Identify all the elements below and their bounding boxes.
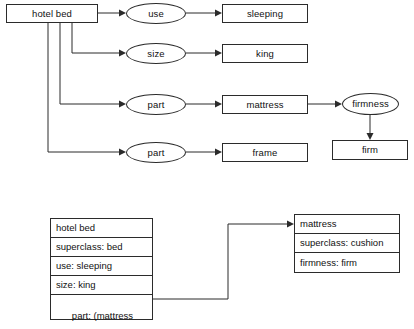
arrowhead-part-frame: [119, 149, 126, 156]
arc-node-use[interactable]: use: [126, 3, 186, 24]
node-mattress-label: mattress: [246, 100, 283, 110]
frame-row[interactable]: firmness: firm: [295, 253, 399, 272]
arc-node-firmness[interactable]: firmness: [342, 93, 399, 115]
arc-node-firmness-label: firmness: [352, 99, 389, 109]
edge-hotelbed-to-part-frame: [48, 22, 119, 152]
arrowhead-firmness: [335, 101, 342, 108]
frame-row-label: use: sleeping: [56, 261, 112, 271]
arc-node-size[interactable]: size: [126, 43, 186, 64]
frame-row[interactable]: hotel bed: [51, 219, 152, 238]
frame-row[interactable]: use: sleeping: [51, 257, 152, 276]
edge-hotelbed-to-size: [72, 22, 119, 53]
arrowhead-mattress: [215, 101, 222, 108]
diagram-root: hotel bed use sleeping size king part ma…: [0, 0, 414, 329]
arrowhead-frame: [215, 149, 222, 156]
arc-node-part-frame[interactable]: part: [126, 142, 186, 163]
arrowhead-use: [119, 10, 126, 17]
node-hotel-bed-label: hotel bed: [32, 9, 72, 19]
frame-row[interactable]: mattress: [295, 215, 399, 234]
arrowhead-frame-pointer: [287, 221, 294, 228]
node-mattress[interactable]: mattress: [222, 95, 308, 114]
arc-node-part-mattress-label: part: [148, 100, 165, 110]
arrowhead-part-mattress: [119, 101, 126, 108]
frame-row-part-line1: part: (mattress: [72, 310, 133, 321]
node-firm[interactable]: firm: [332, 140, 408, 160]
arrowhead-sleeping: [215, 10, 222, 17]
frame-row-label: superclass: cushion: [300, 238, 383, 248]
arrowhead-size: [119, 50, 126, 57]
frame-row-part[interactable]: part: (mattress frame): [51, 295, 152, 319]
arc-node-part-frame-label: part: [148, 148, 165, 158]
edge-frame-pointer: [153, 224, 287, 299]
arrowhead-firm: [367, 133, 374, 140]
frame-row[interactable]: size: king: [51, 276, 152, 295]
frame-row[interactable]: superclass: bed: [51, 238, 152, 257]
frame-row-label: size: king: [56, 280, 96, 290]
node-firm-label: firm: [362, 145, 378, 155]
left-frame-hotel-bed[interactable]: hotel bed superclass: bed use: sleeping …: [50, 218, 153, 320]
frame-row[interactable]: superclass: cushion: [295, 234, 399, 253]
node-frame-label: frame: [253, 148, 278, 158]
frame-row-label: firmness: firm: [300, 258, 357, 268]
arc-node-use-label: use: [148, 9, 164, 19]
node-king[interactable]: king: [222, 44, 308, 63]
node-frame[interactable]: frame: [222, 143, 308, 162]
frame-row-label: mattress: [300, 219, 336, 229]
node-hotel-bed[interactable]: hotel bed: [6, 4, 98, 23]
node-sleeping[interactable]: sleeping: [222, 4, 308, 23]
node-king-label: king: [256, 49, 274, 59]
frame-row-label: superclass: bed: [56, 242, 123, 252]
frame-row-label: hotel bed: [56, 223, 95, 233]
edge-hotelbed-to-part-mattress: [60, 22, 119, 104]
arc-node-part-mattress[interactable]: part: [126, 94, 186, 115]
arc-node-size-label: size: [147, 49, 164, 59]
node-sleeping-label: sleeping: [247, 9, 283, 19]
right-frame-mattress[interactable]: mattress superclass: cushion firmness: f…: [294, 214, 400, 273]
arrowhead-king: [215, 50, 222, 57]
